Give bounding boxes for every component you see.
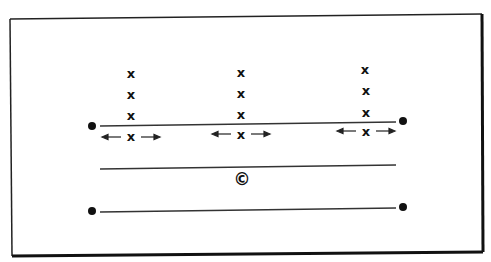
player-column-left: x x x x [102, 66, 160, 144]
player-marker: x [127, 66, 136, 81]
player-column-middle: x x x x [212, 65, 270, 142]
player-marker: x [237, 127, 246, 142]
front-line [100, 122, 396, 126]
back-line [100, 208, 396, 212]
player-marker: x [362, 105, 371, 120]
player-marker: x [237, 107, 246, 122]
player-marker: x [237, 65, 246, 80]
player-marker: x [362, 83, 371, 98]
dot-icon [88, 207, 96, 215]
player-marker: x [362, 124, 371, 139]
player-marker: x [127, 129, 136, 144]
play-diagram: x x x x x x x x x x x x [0, 0, 491, 262]
player-marker: x [361, 62, 370, 77]
court-lines [100, 122, 396, 212]
frame [10, 14, 483, 256]
dot-icon [88, 122, 96, 130]
dot-icon [399, 117, 407, 125]
center-marker-icon: © [234, 169, 251, 189]
player-marker: x [127, 87, 136, 102]
dot-icon [399, 203, 407, 211]
player-column-right: x x x x [337, 62, 395, 139]
player-marker: x [127, 108, 136, 123]
player-marker: x [237, 86, 246, 101]
